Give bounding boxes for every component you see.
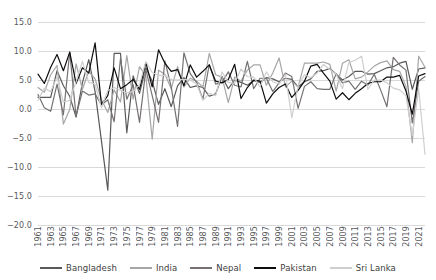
y-axis: 15.010.05.00.0−5.0−10.0−15.0−20.0 [0,0,36,280]
x-axis-tick-label: 2021 [415,226,424,247]
chart-legend: BangladeshIndiaNepalPakistanSri Lanka [0,259,436,277]
x-axis-tick-label: 1979 [148,226,157,247]
x-axis-tick-label: 2003 [300,226,309,247]
x-axis-tick-label: 1961 [34,226,43,247]
legend-label: Sri Lanka [356,263,396,273]
y-axis-tick-label: −5.0 [12,134,32,143]
legend-label: Bangladesh [66,263,117,273]
legend-item-pakistan[interactable]: Pakistan [254,263,316,273]
x-axis-tick-label: 1975 [123,226,132,247]
x-axis-tick-label: 2019 [402,226,411,247]
x-axis-tick-label: 1991 [224,226,233,247]
x-axis-tick-label: 2011 [351,226,360,247]
plot-area [38,22,425,225]
y-axis-tick-label: 15.0 [14,18,32,27]
y-axis-tick-label: −10.0 [7,163,32,172]
x-axis-tick-label: 1981 [161,226,170,247]
x-axis-tick-label: 1977 [136,226,145,247]
legend-label: India [156,263,177,273]
legend-item-nepal[interactable]: Nepal [190,263,241,273]
legend-item-sri-lanka[interactable]: Sri Lanka [330,263,396,273]
x-axis-tick-label: 1967 [72,226,81,247]
x-axis-tick-label: 2007 [326,226,335,247]
x-axis-tick-label: 1995 [250,226,259,247]
x-axis-tick-label: 1969 [85,226,94,247]
x-axis-tick-label: 1993 [237,226,246,247]
series-lines [38,22,425,225]
series-line-bangladesh [38,53,425,190]
x-axis-tick-label: 1983 [174,226,183,247]
legend-swatch-icon [254,267,276,269]
legend-label: Nepal [216,263,241,273]
legend-item-bangladesh[interactable]: Bangladesh [40,263,117,273]
x-axis-tick-label: 1965 [59,226,68,247]
x-axis-tick-label: 1971 [97,226,106,247]
x-axis-tick-label: 1963 [47,226,56,247]
x-axis-tick-label: 1985 [186,226,195,247]
y-axis-tick-label: 5.0 [19,76,32,85]
legend-swatch-icon [40,267,62,269]
y-axis-tick-label: −15.0 [7,192,32,201]
legend-item-india[interactable]: India [130,263,177,273]
x-axis-tick-label: 1973 [110,226,119,247]
x-axis-tick-label: 1989 [212,226,221,247]
y-axis-tick-label: −20.0 [7,221,32,230]
line-chart: 15.010.05.00.0−5.0−10.0−15.0−20.0 196119… [0,0,436,280]
y-axis-tick-label: 0.0 [19,105,32,114]
x-axis-tick-label: 2001 [288,226,297,247]
x-axis-tick-label: 2005 [313,226,322,247]
x-axis-tick-label: 2017 [389,226,398,247]
x-axis-tick-label: 1997 [262,226,271,247]
legend-label: Pakistan [280,263,316,273]
x-axis-tick-label: 2015 [377,226,386,247]
x-axis-tick-label: 1987 [199,226,208,247]
legend-swatch-icon [190,267,212,269]
legend-swatch-icon [130,267,152,269]
x-axis-tick-label: 2009 [339,226,348,247]
legend-swatch-icon [330,267,352,269]
x-axis: 1961196319651967196919711973197519771979… [38,226,425,260]
x-axis-tick-label: 2013 [364,226,373,247]
x-axis-tick-label: 1999 [275,226,284,247]
y-axis-tick-label: 10.0 [14,47,32,56]
